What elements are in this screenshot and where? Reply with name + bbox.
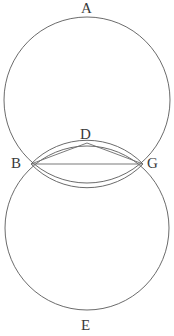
vertex-label-a: A [81,1,92,16]
segment-bd [31,143,87,164]
segment-dg [87,143,143,164]
circle-top-a [4,17,170,183]
lens-upper-arc [31,140,143,164]
geometry-figure: A B D G E [0,0,174,336]
vertex-label-d: D [80,127,91,142]
vertex-label-b: B [11,156,21,171]
vertex-label-e: E [81,318,90,333]
vertex-label-g: G [147,156,158,171]
circle-bottom-e [5,146,169,310]
lens-lower-arc [31,164,143,188]
